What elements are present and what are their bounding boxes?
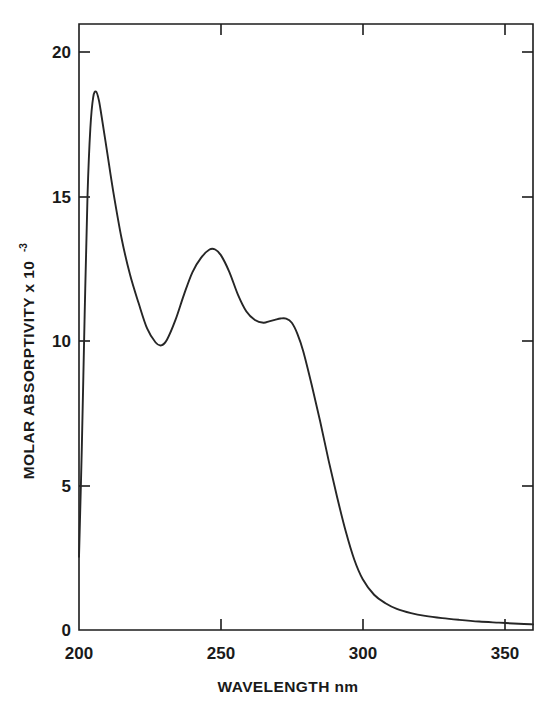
- y-tick-label-10: 10: [52, 332, 71, 351]
- y-axis-title: MOLAR ABSORPTIVITY x 10: [20, 261, 37, 480]
- x-tick-label-250: 250: [207, 644, 235, 663]
- x-axis-title: WAVELENGTH nm: [218, 678, 359, 695]
- y-tick-label-5: 5: [62, 477, 71, 496]
- spectrum-chart-svg: 20 15 10 5 0 200 250 300 350 WAVELENGTH …: [0, 0, 552, 711]
- top-frame-ticks: [221, 24, 505, 35]
- x-tick-label-300: 300: [349, 644, 377, 663]
- x-tick-labels: 200 250 300 350: [65, 644, 519, 663]
- y-tick-label-20: 20: [52, 43, 71, 62]
- x-tick-label-200: 200: [65, 644, 93, 663]
- y-tick-label-0: 0: [62, 621, 71, 640]
- y-axis-ticks: [79, 52, 90, 486]
- right-frame-ticks: [522, 52, 533, 486]
- x-tick-label-350: 350: [491, 644, 519, 663]
- y-axis-title-group: MOLAR ABSORPTIVITY x 10 -3: [18, 243, 37, 480]
- y-axis-title-exponent: -3: [18, 243, 29, 252]
- spectrum-curve: [79, 91, 533, 624]
- spectrum-figure: 20 15 10 5 0 200 250 300 350 WAVELENGTH …: [0, 0, 552, 711]
- y-tick-labels: 20 15 10 5 0: [52, 43, 71, 640]
- y-tick-label-15: 15: [52, 188, 71, 207]
